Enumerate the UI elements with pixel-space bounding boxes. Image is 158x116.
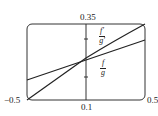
- series-f-prime-over-g-prime-right: [86, 24, 145, 58]
- legend-label-f-over-g: f g: [100, 59, 106, 77]
- x-left-label: −0.5: [4, 96, 20, 105]
- denominator: g′: [99, 37, 105, 45]
- numerator: f′: [100, 27, 104, 35]
- legend-label-f-prime-over-g-prime: f′ g′: [99, 27, 105, 45]
- chart-plot: [0, 0, 158, 116]
- x-right-label: 0.5: [147, 96, 158, 105]
- denominator: g: [101, 69, 105, 77]
- numerator: f: [102, 59, 104, 67]
- series-f-prime-over-g-prime: [27, 58, 86, 100]
- y-top-label: 0.35: [80, 13, 96, 22]
- x-axis-crossing-label: 0.1: [81, 103, 92, 112]
